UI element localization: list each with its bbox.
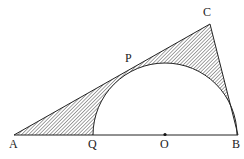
- label-p: P: [125, 52, 132, 64]
- label-a: A: [9, 138, 18, 150]
- label-o: O: [160, 138, 169, 150]
- shaded-region: [14, 24, 238, 135]
- geometry-figure: [0, 0, 244, 159]
- label-b: B: [232, 138, 240, 150]
- center-point-o: [163, 133, 166, 136]
- label-q: Q: [88, 138, 97, 150]
- label-c: C: [203, 6, 211, 18]
